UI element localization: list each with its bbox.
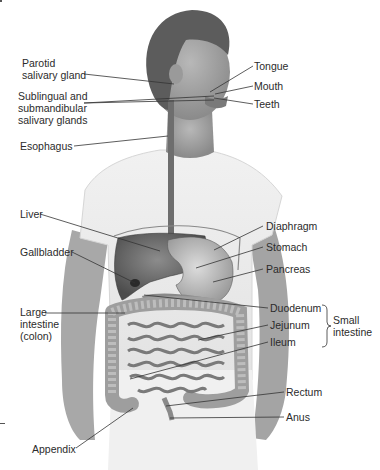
label-small-intestine-line2: intestine — [333, 326, 372, 338]
label-large-intestine-line3: (colon) — [20, 330, 59, 342]
label-sublingual-line1: Sublingual and — [18, 90, 87, 102]
digestive-system-diagram: Parotid salivary gland Sublingual and su… — [0, 0, 380, 470]
edge-mark — [0, 423, 5, 424]
label-appendix: Appendix — [32, 443, 76, 455]
label-parotid-line1: Parotid — [22, 57, 86, 69]
label-large-intestine-line2: intestine — [20, 318, 59, 330]
label-tongue: Tongue — [254, 60, 288, 72]
label-small-intestine: Small intestine — [333, 314, 372, 338]
label-anus: Anus — [286, 411, 310, 423]
label-jejunum: Jejunum — [270, 319, 310, 331]
label-stomach: Stomach — [266, 241, 307, 253]
label-parotid-salivary-gland: Parotid salivary gland — [22, 57, 86, 81]
label-esophagus: Esophagus — [20, 140, 73, 152]
label-liver: Liver — [20, 208, 43, 220]
label-large-intestine: Large intestine (colon) — [20, 306, 59, 342]
label-rectum: Rectum — [286, 386, 322, 398]
label-parotid-line2: salivary gland — [22, 69, 86, 81]
label-sublingual-submandibular-glands: Sublingual and submandibular salivary gl… — [18, 90, 87, 126]
label-diaphragm: Diaphragm — [266, 220, 317, 232]
label-gallbladder: Gallbladder — [20, 246, 74, 258]
label-duodenum: Duodenum — [270, 302, 321, 314]
label-sublingual-line3: salivary glands — [18, 114, 87, 126]
label-mouth: Mouth — [254, 80, 283, 92]
label-small-intestine-line1: Small — [333, 314, 372, 326]
head — [146, 10, 230, 120]
label-ileum: Ileum — [270, 336, 296, 348]
label-teeth: Teeth — [254, 98, 280, 110]
label-sublingual-line2: submandibular — [18, 102, 87, 114]
label-large-intestine-line1: Large — [20, 306, 59, 318]
label-pancreas: Pancreas — [266, 263, 310, 275]
edge-dot — [0, 0, 2, 2]
